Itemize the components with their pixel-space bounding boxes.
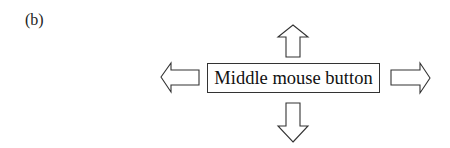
arrow-right-outline-icon: [391, 63, 430, 93]
arrow-down-outline-icon: [278, 103, 308, 142]
middle-mouse-button-label: Middle mouse button: [214, 68, 372, 89]
arrow-left-outline-icon: [161, 63, 199, 92]
arrow-up-outline-icon: [278, 25, 308, 57]
middle-mouse-button-box: Middle mouse button: [207, 63, 380, 93]
